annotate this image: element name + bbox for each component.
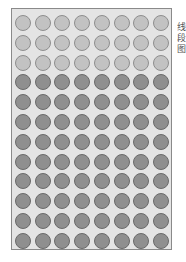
dark-dot (54, 134, 70, 150)
dark-dot (54, 213, 70, 229)
dark-dot (74, 193, 90, 209)
dark-dot (15, 134, 31, 150)
dark-dot (94, 233, 110, 249)
dark-dot (74, 94, 90, 110)
dark-dot (133, 193, 149, 209)
dark-dot (35, 193, 51, 209)
dark-dot (94, 74, 110, 90)
light-dot (153, 15, 169, 31)
light-dot (54, 55, 70, 71)
dark-dot (114, 233, 130, 249)
dark-dot (114, 134, 130, 150)
dark-dot (94, 213, 110, 229)
dark-dot (133, 154, 149, 170)
light-dot (133, 55, 149, 71)
light-dot (153, 35, 169, 51)
dark-dot (54, 233, 70, 249)
dark-dot (15, 94, 31, 110)
dark-dot (74, 173, 90, 189)
light-dot (54, 35, 70, 51)
dark-dot (153, 193, 169, 209)
light-dot (94, 15, 110, 31)
dark-dot (153, 114, 169, 130)
dark-dot (133, 114, 149, 130)
dark-dot (35, 134, 51, 150)
light-dot (35, 35, 51, 51)
dark-dot (54, 154, 70, 170)
dark-dot (153, 74, 169, 90)
dark-dot (74, 233, 90, 249)
dark-dot (15, 233, 31, 249)
dark-dot (35, 74, 51, 90)
dark-dot (74, 213, 90, 229)
dark-dot (74, 154, 90, 170)
light-dot (133, 35, 149, 51)
dark-dot (114, 173, 130, 189)
dark-dot (114, 154, 130, 170)
light-dot (15, 55, 31, 71)
dark-dot (153, 154, 169, 170)
dark-dot (94, 154, 110, 170)
dark-dot (114, 193, 130, 209)
dark-dot (133, 173, 149, 189)
light-dot (114, 35, 130, 51)
light-dot (74, 35, 90, 51)
dark-dot (74, 134, 90, 150)
dark-dot (15, 114, 31, 130)
light-dot (35, 15, 51, 31)
light-dot (153, 55, 169, 71)
light-dot (15, 15, 31, 31)
dark-dot (114, 213, 130, 229)
dark-dot (35, 94, 51, 110)
dark-dot (114, 94, 130, 110)
dark-dot (114, 114, 130, 130)
dark-dot (74, 74, 90, 90)
dark-dot (153, 173, 169, 189)
dark-dot (35, 213, 51, 229)
dark-dot (133, 134, 149, 150)
light-dot (74, 55, 90, 71)
dark-dot (35, 114, 51, 130)
dark-dot (114, 74, 130, 90)
dark-dot (54, 173, 70, 189)
dark-dot (74, 114, 90, 130)
dot-grid-board (11, 8, 172, 250)
dark-dot (94, 114, 110, 130)
light-dot (74, 15, 90, 31)
dark-dot (153, 134, 169, 150)
dark-dot (133, 94, 149, 110)
dark-dot (153, 213, 169, 229)
light-dot (54, 15, 70, 31)
dark-dot (94, 193, 110, 209)
dark-dot (133, 233, 149, 249)
dark-dot (54, 114, 70, 130)
light-dot (94, 35, 110, 51)
dark-dot (35, 154, 51, 170)
light-dot (114, 15, 130, 31)
dark-dot (94, 134, 110, 150)
dark-dot (15, 173, 31, 189)
dark-dot (54, 193, 70, 209)
side-caption: 线段图 (177, 22, 186, 55)
dark-dot (153, 233, 169, 249)
light-dot (15, 35, 31, 51)
dark-dot (133, 213, 149, 229)
dark-dot (35, 173, 51, 189)
light-dot (94, 55, 110, 71)
dark-dot (15, 213, 31, 229)
dark-dot (15, 74, 31, 90)
dark-dot (35, 233, 51, 249)
light-dot (35, 55, 51, 71)
light-dot (114, 55, 130, 71)
dark-dot (54, 94, 70, 110)
dark-dot (94, 173, 110, 189)
dark-dot (54, 74, 70, 90)
light-dot (133, 15, 149, 31)
dark-dot (133, 74, 149, 90)
dark-dot (15, 154, 31, 170)
dark-dot (15, 193, 31, 209)
dark-dot (94, 94, 110, 110)
dark-dot (153, 94, 169, 110)
